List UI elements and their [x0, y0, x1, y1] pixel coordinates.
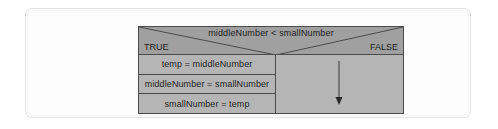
branches-container: temp = middleNumber middleNumber = small… — [139, 55, 403, 113]
statement-box: temp = middleNumber — [139, 55, 275, 75]
true-branch-label: TRUE — [144, 42, 169, 52]
statement-box: smallNumber = temp — [139, 94, 275, 113]
figure-frame: middleNumber < smallNumber TRUE FALSE te… — [25, 8, 471, 118]
down-arrow-icon — [276, 55, 402, 113]
false-branch — [276, 55, 403, 113]
structogram-diagram: middleNumber < smallNumber TRUE FALSE te… — [138, 26, 404, 114]
false-branch-label: FALSE — [370, 42, 398, 52]
true-branch: temp = middleNumber middleNumber = small… — [139, 55, 276, 113]
condition-header-band: middleNumber < smallNumber TRUE FALSE — [139, 27, 403, 55]
condition-expression: middleNumber < smallNumber — [139, 28, 403, 38]
statement-box: middleNumber = smallNumber — [139, 75, 275, 95]
